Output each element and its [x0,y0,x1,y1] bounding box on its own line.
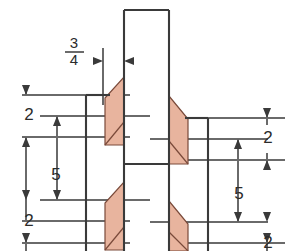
left-dim-bottom-2: 2 [24,211,33,230]
right-dim-bottom-2: 2 [263,233,272,251]
engineering-drawing-canvas: 3 4 2 5 2 2 5 2 [0,0,301,251]
left-dim-middle-5: 5 [51,165,60,184]
left-dim-top-2: 2 [24,105,33,124]
right-dim-top-2: 2 [263,128,272,147]
gap-numerator: 3 [70,34,78,51]
right-dim-middle-5: 5 [234,184,243,203]
welded-connection-drawing: 3 4 2 5 2 2 5 2 [0,0,301,251]
gap-denominator: 4 [70,51,78,68]
drawing-background [0,0,301,251]
